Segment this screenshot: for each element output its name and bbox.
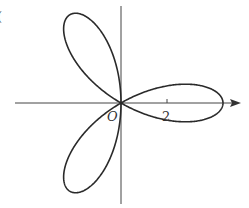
origin-label: O [107,109,118,124]
x-tick-label: 2 [162,109,170,124]
figure-label-fragment: ( [0,9,2,24]
rose-curve-figure: ( 2 O [0,0,249,208]
